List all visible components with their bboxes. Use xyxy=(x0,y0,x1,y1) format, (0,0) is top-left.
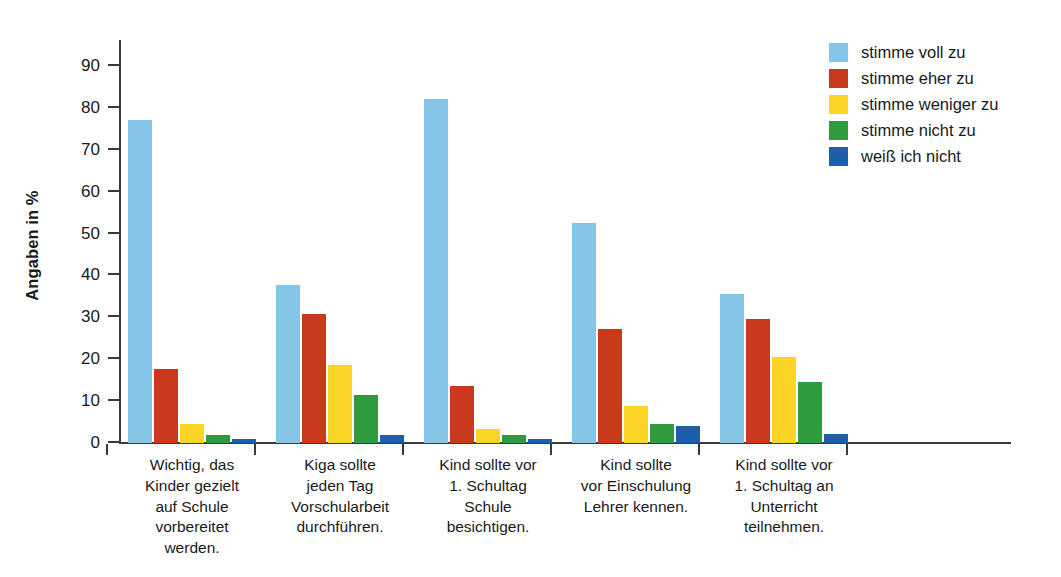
x-tick-mark xyxy=(254,444,256,455)
x-category-label: Kind sollte vor 1. Schultag Schule besic… xyxy=(413,455,563,538)
x-tick-mark xyxy=(550,444,552,455)
bar xyxy=(128,120,152,443)
bar xyxy=(746,319,770,443)
y-tick-label: 0 xyxy=(56,434,100,451)
legend-item: stimme weniger zu xyxy=(829,92,999,117)
bar xyxy=(650,424,674,443)
x-category-label: Kiga sollte jeden Tag Vorschularbeit dur… xyxy=(265,455,415,538)
bar xyxy=(502,435,526,443)
legend-color-swatch xyxy=(829,147,848,166)
bar xyxy=(154,369,178,443)
bar-chart: Angaben in % 0102030405060708090 Wichtig… xyxy=(0,0,1061,577)
y-tick-mark xyxy=(108,232,120,234)
bar xyxy=(476,429,500,443)
y-tick-label: 20 xyxy=(56,350,100,367)
legend-color-swatch xyxy=(829,69,848,88)
y-tick-mark xyxy=(108,315,120,317)
legend-color-swatch xyxy=(829,43,848,62)
bar xyxy=(676,426,700,443)
bar xyxy=(720,294,744,443)
legend-item-label: stimme voll zu xyxy=(861,44,966,61)
bar xyxy=(354,395,378,443)
legend-item-label: stimme eher zu xyxy=(861,70,974,87)
legend-color-swatch xyxy=(829,121,848,140)
y-tick-label: 80 xyxy=(56,98,100,115)
chart-legend: stimme voll zustimme eher zustimme wenig… xyxy=(829,40,999,170)
bar xyxy=(206,435,230,443)
y-tick-mark xyxy=(108,190,120,192)
y-axis-title: Angaben in % xyxy=(23,166,42,326)
bar xyxy=(572,223,596,443)
bar xyxy=(528,439,552,443)
bar xyxy=(798,382,822,443)
y-tick-label: 10 xyxy=(56,392,100,409)
legend-item: stimme voll zu xyxy=(829,40,999,65)
y-tick-mark xyxy=(108,441,120,443)
legend-item: stimme nicht zu xyxy=(829,118,999,143)
x-tick-mark xyxy=(698,444,700,455)
bar xyxy=(180,424,204,443)
bar xyxy=(276,285,300,443)
legend-item: stimme eher zu xyxy=(829,66,999,91)
legend-item-label: stimme nicht zu xyxy=(861,122,976,139)
bar xyxy=(598,329,622,443)
y-tick-label: 60 xyxy=(56,182,100,199)
x-tick-mark xyxy=(846,444,848,455)
legend-color-swatch xyxy=(829,95,848,114)
legend-item: weiß ich nicht xyxy=(829,144,999,169)
bar xyxy=(450,386,474,443)
bar xyxy=(772,357,796,443)
legend-item-label: stimme weniger zu xyxy=(861,96,999,113)
y-tick-label: 90 xyxy=(56,56,100,73)
y-tick-mark xyxy=(108,273,120,275)
bar xyxy=(232,439,256,443)
y-tick-label: 70 xyxy=(56,140,100,157)
x-category-label: Kind sollte vor 1. Schultag an Unterrich… xyxy=(709,455,859,538)
legend-item-label: weiß ich nicht xyxy=(861,148,961,165)
bar xyxy=(302,314,326,443)
y-tick-mark xyxy=(108,357,120,359)
y-tick-label: 40 xyxy=(56,266,100,283)
bar xyxy=(424,99,448,443)
y-tick-mark xyxy=(108,399,120,401)
x-tick-mark xyxy=(402,444,404,455)
x-category-label: Kind sollte vor Einschulung Lehrer kenne… xyxy=(561,455,711,517)
bar xyxy=(624,406,648,443)
bar xyxy=(328,365,352,443)
bar xyxy=(380,435,404,443)
bar xyxy=(824,434,848,443)
x-category-label: Wichtig, das Kinder gezielt auf Schule v… xyxy=(117,455,267,559)
x-tick-mark xyxy=(106,444,108,455)
y-tick-label: 30 xyxy=(56,308,100,325)
y-tick-label: 50 xyxy=(56,224,100,241)
y-tick-mark xyxy=(108,148,120,150)
y-tick-mark xyxy=(108,106,120,108)
y-tick-mark xyxy=(108,64,120,66)
